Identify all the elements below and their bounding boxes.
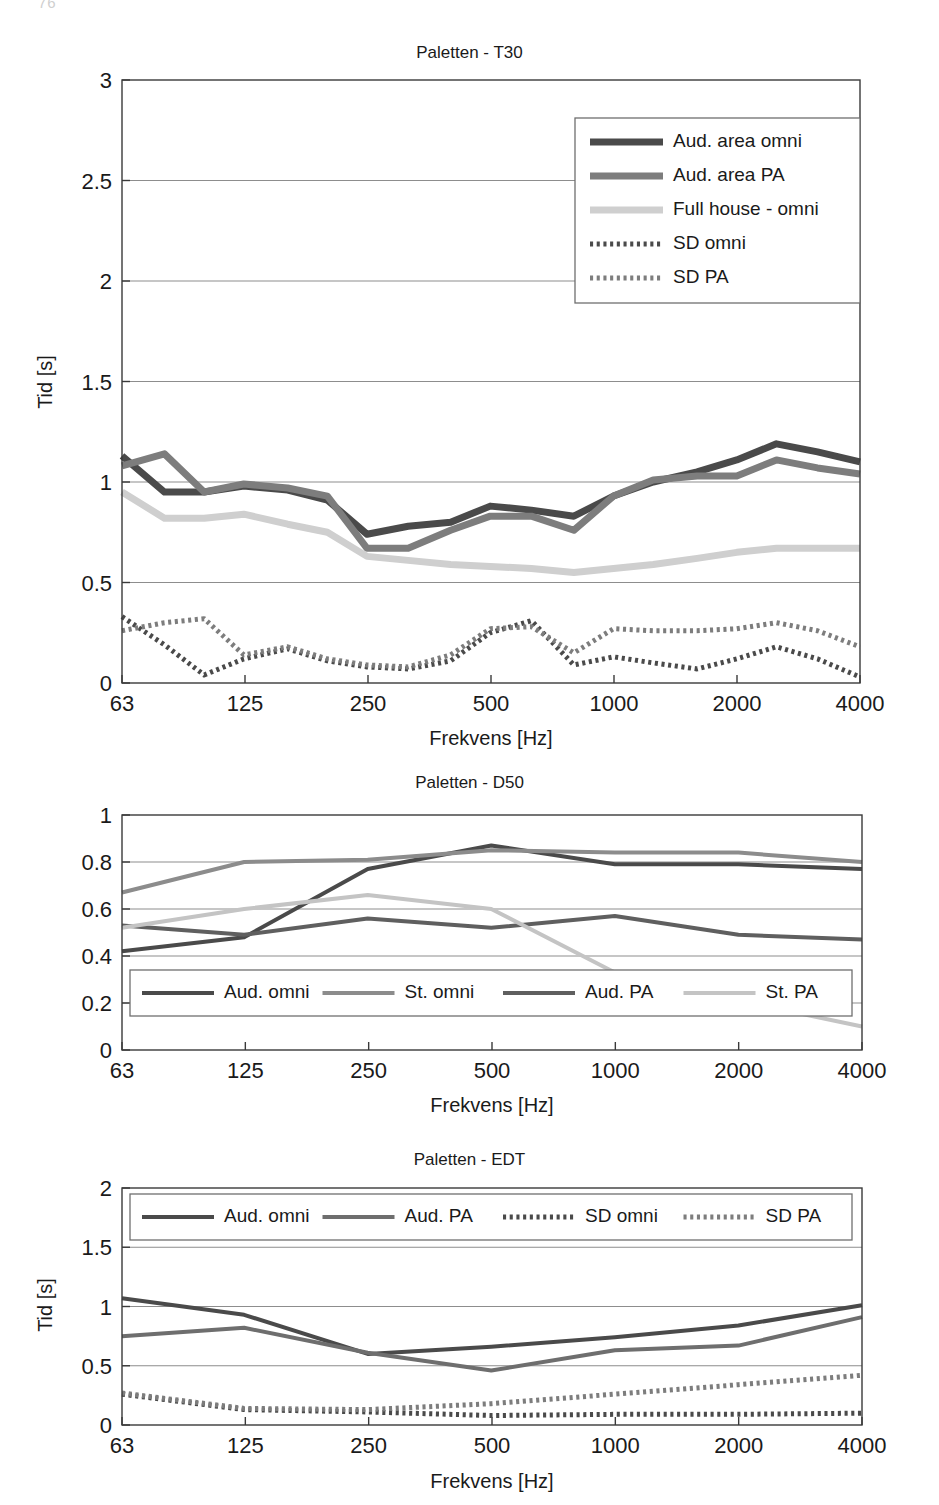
y-tick-label: 0.2 bbox=[81, 991, 112, 1016]
y-axis-label: Tid [s] bbox=[34, 1278, 56, 1332]
legend-label: Aud. omni bbox=[224, 981, 310, 1002]
x-tick-label: 63 bbox=[110, 691, 134, 716]
x-axis-label: Frekvens [Hz] bbox=[430, 1470, 553, 1492]
series-line bbox=[122, 916, 862, 940]
legend-label: SD PA bbox=[673, 266, 729, 287]
legend-label: St. PA bbox=[766, 981, 819, 1002]
y-tick-label: 3 bbox=[100, 68, 112, 93]
x-tick-label: 500 bbox=[474, 1058, 511, 1083]
y-tick-label: 0.5 bbox=[81, 571, 112, 596]
y-tick-label: 0.5 bbox=[81, 1354, 112, 1379]
x-tick-label: 4000 bbox=[838, 1433, 887, 1458]
x-tick-label: 125 bbox=[227, 691, 264, 716]
y-tick-label: 1 bbox=[100, 1295, 112, 1320]
x-tick-label: 500 bbox=[474, 1433, 511, 1458]
legend-label: Aud. PA bbox=[585, 981, 654, 1002]
series-line bbox=[122, 454, 860, 548]
y-tick-label: 0.8 bbox=[81, 850, 112, 875]
x-tick-label: 63 bbox=[110, 1433, 134, 1458]
chart-d50: Paletten - D5000.20.40.60.81631252505001… bbox=[0, 760, 939, 1140]
series-line bbox=[122, 850, 862, 892]
x-axis-label: Frekvens [Hz] bbox=[429, 727, 552, 749]
legend-label: Aud. area PA bbox=[673, 164, 785, 185]
x-tick-label: 1000 bbox=[590, 691, 639, 716]
legend-label: Full house - omni bbox=[673, 198, 819, 219]
y-tick-label: 2 bbox=[100, 1176, 112, 1201]
x-tick-label: 2000 bbox=[713, 691, 762, 716]
y-axis-label: Tid [s] bbox=[34, 355, 56, 409]
legend-label: SD PA bbox=[766, 1205, 822, 1226]
y-tick-label: 1 bbox=[100, 803, 112, 828]
legend-label: SD omni bbox=[673, 232, 746, 253]
chart-t30: Paletten - T3000.511.522.536312525050010… bbox=[0, 30, 939, 760]
y-tick-label: 1.5 bbox=[81, 1235, 112, 1260]
x-tick-label: 250 bbox=[350, 1433, 387, 1458]
y-tick-label: 2.5 bbox=[81, 169, 112, 194]
x-tick-label: 2000 bbox=[714, 1433, 763, 1458]
y-tick-label: 1.5 bbox=[81, 370, 112, 395]
series-line bbox=[122, 1375, 862, 1409]
x-tick-label: 500 bbox=[473, 691, 510, 716]
legend-label: Aud. PA bbox=[405, 1205, 474, 1226]
legend-label: Aud. area omni bbox=[673, 130, 802, 151]
chart-edt: Paletten - EDT00.511.5263125250500100020… bbox=[0, 1140, 939, 1505]
chart-svg-t30: Paletten - T3000.511.522.536312525050010… bbox=[0, 30, 939, 760]
x-tick-label: 125 bbox=[227, 1058, 264, 1083]
chart-title: Paletten - EDT bbox=[414, 1150, 526, 1169]
chart-title: Paletten - T30 bbox=[416, 43, 522, 62]
legend-label: SD omni bbox=[585, 1205, 658, 1226]
y-tick-label: 0.6 bbox=[81, 897, 112, 922]
y-tick-label: 2 bbox=[100, 269, 112, 294]
page-number-artifact: 76 bbox=[38, 0, 57, 11]
x-tick-label: 2000 bbox=[714, 1058, 763, 1083]
x-tick-label: 1000 bbox=[591, 1058, 640, 1083]
legend-label: Aud. omni bbox=[224, 1205, 310, 1226]
x-tick-label: 4000 bbox=[838, 1058, 887, 1083]
series-line bbox=[122, 619, 860, 667]
x-axis-label: Frekvens [Hz] bbox=[430, 1094, 553, 1116]
chart-svg-d50: Paletten - D5000.20.40.60.81631252505001… bbox=[0, 760, 939, 1140]
x-tick-label: 4000 bbox=[836, 691, 885, 716]
x-tick-label: 250 bbox=[350, 1058, 387, 1083]
y-tick-label: 1 bbox=[100, 470, 112, 495]
x-tick-label: 63 bbox=[110, 1058, 134, 1083]
y-tick-label: 0.4 bbox=[81, 944, 112, 969]
x-tick-label: 250 bbox=[350, 691, 387, 716]
x-tick-label: 1000 bbox=[591, 1433, 640, 1458]
chart-title: Paletten - D50 bbox=[415, 773, 524, 792]
legend-label: St. omni bbox=[405, 981, 475, 1002]
chart-svg-edt: Paletten - EDT00.511.5263125250500100020… bbox=[0, 1140, 939, 1505]
x-tick-label: 125 bbox=[227, 1433, 264, 1458]
